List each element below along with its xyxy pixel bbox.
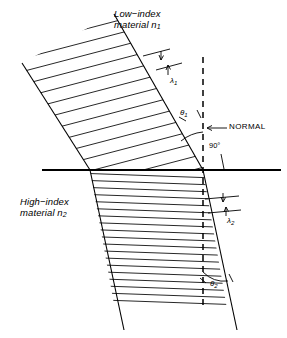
normal-label: NORMAL (229, 122, 266, 131)
upper-material-line1: Low−index (114, 8, 161, 19)
normal-callout-arrow (207, 126, 227, 131)
refracted-beam-left-edge (90, 170, 124, 330)
refracted-beam-right-edge (203, 170, 237, 330)
incident-beam-left-edge (22, 63, 90, 170)
upper-material-label: Low−index material n1 (114, 8, 161, 31)
lower-material-line2: material n2 (20, 207, 67, 218)
upper-material-subscript: 1 (157, 23, 161, 30)
lambda1-label: λ1 (170, 76, 177, 87)
lower-beam-wavefronts (0, 170, 287, 307)
lambda1-dimension-bracket (143, 49, 182, 75)
upper-material-line2: material n1 (114, 19, 161, 30)
right-angle-pointer (221, 154, 224, 169)
lower-material-label: High−index material n2 (20, 196, 69, 219)
right-angle-label: 90° (209, 142, 220, 151)
lower-material-line1: High−index (20, 196, 69, 207)
theta2-label: θ2 (210, 279, 218, 290)
incident-beam-right-edge (114, 14, 203, 170)
lambda2-label: λ2 (227, 216, 234, 227)
lower-material-subscript: 2 (63, 211, 67, 218)
theta1-label: θ1 (180, 108, 188, 119)
refraction-diagram (0, 0, 287, 338)
